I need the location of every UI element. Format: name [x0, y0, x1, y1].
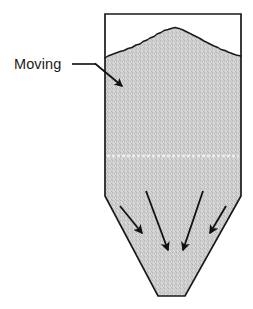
- moving-label-text: Moving: [14, 56, 61, 72]
- granular-material-fill: [105, 28, 241, 296]
- material-stipple-overlay: [105, 56, 241, 296]
- silo-diagram-svg: Moving: [0, 0, 253, 309]
- diagram-canvas: Moving: [0, 0, 253, 309]
